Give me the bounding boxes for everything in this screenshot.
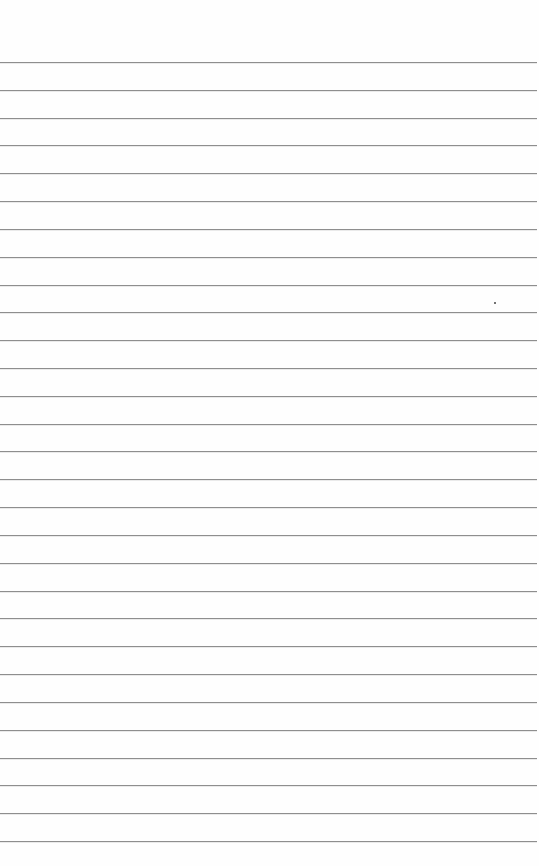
- ruled-line: [0, 785, 537, 786]
- ruled-line: [0, 368, 537, 369]
- speck-mark: [494, 302, 496, 304]
- ruled-line: [0, 591, 537, 592]
- ruled-line: [0, 145, 537, 146]
- ruled-line: [0, 646, 537, 647]
- ruled-line: [0, 563, 537, 564]
- ruled-line: [0, 451, 537, 452]
- ruled-line: [0, 90, 537, 91]
- ruled-line: [0, 674, 537, 675]
- ruled-line: [0, 229, 537, 230]
- ruled-line: [0, 62, 537, 63]
- ruled-line: [0, 841, 537, 842]
- ruled-line: [0, 507, 537, 508]
- ruled-line: [0, 201, 537, 202]
- ruled-line: [0, 340, 537, 341]
- ruled-line: [0, 257, 537, 258]
- ruled-line: [0, 118, 537, 119]
- ruled-line: [0, 396, 537, 397]
- ruled-line: [0, 535, 537, 536]
- ruled-line: [0, 813, 537, 814]
- ruled-line: [0, 730, 537, 731]
- ruled-line: [0, 618, 537, 619]
- ruled-line: [0, 479, 537, 480]
- ruled-line: [0, 285, 537, 286]
- lined-paper: [0, 0, 539, 866]
- ruled-line: [0, 424, 537, 425]
- ruled-line: [0, 758, 537, 759]
- ruled-line: [0, 702, 537, 703]
- ruled-line: [0, 173, 537, 174]
- ruled-line: [0, 312, 537, 313]
